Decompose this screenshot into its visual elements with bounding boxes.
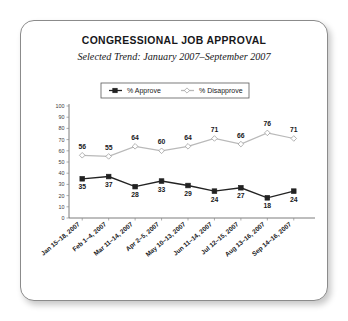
line-chart: % Approve% Disapprove1009080706050403020…	[21, 21, 329, 302]
data-point-marker	[186, 183, 191, 188]
data-point-label: 28	[131, 191, 139, 198]
data-point-marker	[185, 144, 191, 150]
data-point-marker	[80, 177, 85, 182]
data-point-marker	[239, 185, 244, 190]
data-point-label: 55	[105, 144, 113, 151]
data-point-marker	[291, 189, 296, 194]
data-point-label: 37	[105, 181, 113, 188]
y-tick-label: 90	[59, 114, 65, 120]
legend-label-1: % Approve	[127, 87, 161, 95]
y-tick-label: 100	[56, 103, 65, 109]
data-point-label: 76	[264, 120, 272, 127]
y-tick-label: 60	[59, 148, 65, 154]
chart-plot-area: % Approve% Disapprove1009080706050403020…	[21, 21, 329, 302]
data-point-marker	[79, 152, 85, 158]
data-point-marker	[238, 141, 244, 147]
line-square-marker-icon	[113, 88, 117, 92]
y-tick-label: 80	[59, 125, 65, 131]
data-point-label: 24	[290, 196, 298, 203]
data-point-label: 71	[290, 126, 298, 133]
legend-label-2: % Disapprove	[199, 87, 243, 95]
data-point-label: 33	[158, 186, 166, 193]
data-point-label: 27	[237, 192, 245, 199]
series-2: 565564606471667671	[78, 120, 297, 159]
data-point-label: 71	[211, 126, 219, 133]
data-point-label: 56	[78, 143, 86, 150]
data-point-marker	[265, 130, 271, 136]
data-point-marker	[133, 184, 138, 189]
y-tick-label: 50	[59, 159, 65, 165]
y-tick-label: 0	[62, 215, 65, 221]
data-point-marker	[132, 144, 138, 150]
data-point-marker	[265, 196, 270, 201]
data-point-marker	[159, 148, 165, 154]
data-point-marker	[106, 154, 112, 160]
data-point-label: 60	[158, 138, 166, 145]
data-point-marker	[212, 136, 218, 142]
y-tick-label: 40	[59, 170, 65, 176]
data-point-label: 66	[237, 132, 245, 139]
data-point-label: 29	[184, 190, 192, 197]
y-tick-label: 20	[59, 193, 65, 199]
data-point-label: 64	[131, 134, 139, 141]
y-tick-label: 30	[59, 181, 65, 187]
data-point-marker	[212, 189, 217, 194]
y-tick-label: 70	[59, 137, 65, 143]
data-point-label: 64	[184, 134, 192, 141]
data-point-label: 24	[211, 196, 219, 203]
data-point-label: 35	[78, 183, 86, 190]
series-1: 353728332924271824	[78, 174, 297, 209]
chart-card: CONGRESSIONAL JOB APPROVAL Selected Tren…	[20, 20, 328, 301]
data-point-label: 18	[264, 202, 272, 209]
data-point-marker	[106, 174, 111, 179]
data-point-marker	[291, 136, 297, 142]
y-tick-label: 10	[59, 204, 65, 210]
data-point-marker	[159, 179, 164, 184]
